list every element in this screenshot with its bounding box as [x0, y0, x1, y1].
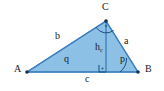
- angle-c-dot-icon: [105, 25, 107, 27]
- vertex-label-c: C: [102, 2, 109, 12]
- altitude-label-subscript: c: [100, 47, 103, 53]
- vertex-point-b: [136, 70, 140, 74]
- side-label-b: b: [55, 31, 60, 41]
- vertex-label-a: A: [14, 64, 21, 74]
- triangle-figure: [0, 0, 164, 91]
- angle-label-p: p: [120, 54, 125, 64]
- side-label-c: c: [85, 74, 89, 84]
- altitude-label-h-c: hc: [95, 42, 103, 52]
- geometry-diagram: A B C a b c hc q p: [0, 0, 164, 91]
- segment-label-q: q: [64, 54, 69, 64]
- vertex-label-b: B: [145, 64, 152, 74]
- side-label-a: a: [124, 36, 128, 46]
- vertex-point-c: [104, 19, 108, 23]
- right-angle-dot-icon: [102, 68, 104, 70]
- vertex-point-a: [25, 70, 29, 74]
